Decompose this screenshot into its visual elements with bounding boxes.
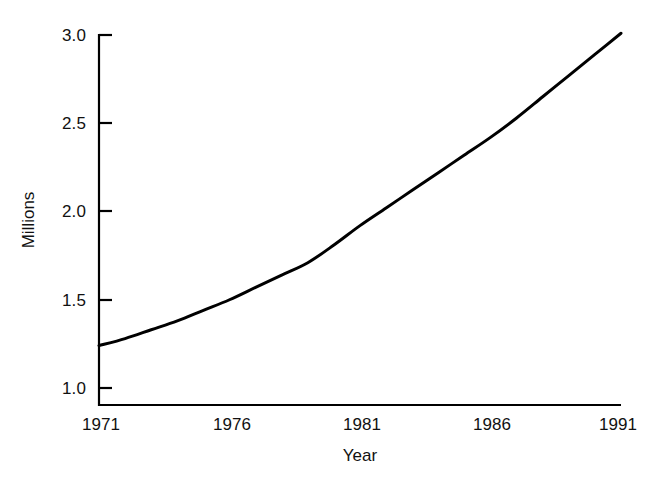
y-tick-marks bbox=[99, 35, 112, 388]
x-tick-label-1991: 1991 bbox=[599, 416, 637, 433]
plot-area-svg bbox=[0, 0, 652, 477]
x-tick-label-1986: 1986 bbox=[473, 416, 511, 433]
y-tick-label-2-0: 2.0 bbox=[38, 203, 86, 220]
y-tick-label-1-0: 1.0 bbox=[38, 380, 86, 397]
chart-figure: 3.0 2.5 2.0 1.5 1.0 1971 1976 1981 1986 … bbox=[0, 0, 652, 477]
y-tick-label-1-5: 1.5 bbox=[38, 292, 86, 309]
y-axis-title: Millions bbox=[20, 192, 37, 249]
data-series-line bbox=[99, 33, 621, 345]
y-tick-label-2-5: 2.5 bbox=[38, 115, 86, 132]
y-tick-label-3-0: 3.0 bbox=[38, 27, 86, 44]
x-tick-label-1981: 1981 bbox=[343, 416, 381, 433]
x-tick-label-1971: 1971 bbox=[82, 416, 120, 433]
x-axis-title: Year bbox=[343, 447, 377, 464]
x-tick-label-1976: 1976 bbox=[213, 416, 251, 433]
